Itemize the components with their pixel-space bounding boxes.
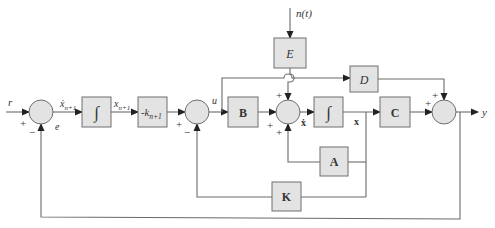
A-block: A	[320, 147, 348, 176]
signal-n-label: n(t)	[296, 7, 312, 20]
wire-y-feedback	[41, 112, 460, 219]
B-label: B	[239, 106, 247, 120]
signal-u-label: u	[212, 95, 217, 106]
signal-x-label: x	[354, 116, 359, 127]
sum2-plus-sign: +	[176, 118, 182, 130]
C-block: C	[380, 97, 410, 127]
sum3-plus-bottom-sign: +	[276, 126, 282, 138]
summing-junction-1	[29, 100, 53, 124]
summing-junction-2	[185, 100, 209, 124]
summing-junction-4	[432, 100, 456, 124]
wire-K-to-sum2	[197, 124, 272, 197]
D-block: D	[350, 66, 378, 92]
B-block: B	[228, 97, 258, 127]
signal-e-label: e	[55, 121, 60, 132]
signal-y-label: y	[481, 106, 487, 118]
sum4-plus-left-sign: +	[425, 97, 431, 109]
E-label: E	[285, 47, 294, 61]
gain-k-block: -kn+1	[138, 97, 167, 127]
signal-x-n1-label: xn+1	[113, 98, 130, 112]
E-block: E	[274, 38, 306, 68]
summing-junction-3	[276, 100, 300, 124]
integrator-2-block: ∫	[314, 97, 343, 127]
integrator-1-block: ∫	[82, 97, 111, 127]
A-label: A	[330, 155, 339, 169]
signal-r-label: r	[8, 96, 13, 108]
C-label: C	[391, 106, 400, 120]
wire-A-to-sum3	[288, 124, 320, 162]
sum2-minus-sign: −	[184, 126, 190, 138]
sum1-plus-sign: +	[20, 117, 26, 129]
sum3-plus-left-sign: +	[267, 119, 273, 131]
signal-xdot-n1-label: ẋn+1	[59, 98, 76, 112]
K-block: K	[272, 182, 301, 211]
K-label: K	[282, 190, 292, 204]
sum4-plus-top-sign: +	[432, 89, 438, 101]
signal-xdot-label: ẋ	[301, 117, 306, 128]
sum1-minus-sign: −	[29, 126, 35, 138]
block-diagram: ∫ -kn+1 B E D ∫ C A K r ẋn+1 e xn+1 u n(…	[0, 0, 495, 228]
D-label: D	[359, 73, 369, 87]
sum3-plus-top-sign: +	[276, 89, 282, 101]
wire-E-to-sum3	[288, 68, 294, 100]
